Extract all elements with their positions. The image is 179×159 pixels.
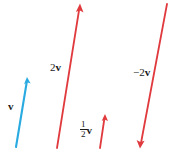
vector-half-v [100,114,108,148]
vector-scalar-multiple-figure: v 2v 12v −2v [0,0,179,159]
label-vector-2v-symbol: v [56,61,62,73]
label-vector-half-v: 12v [80,120,92,139]
label-vector-minus-2v-coefficient: −2 [133,66,145,78]
label-vector-v: v [8,101,14,112]
vector-v [16,77,31,147]
label-vector-v-text: v [8,100,14,112]
label-vector-minus-2v-symbol: v [145,66,151,78]
label-vector-minus-2v: −2v [133,67,150,78]
vector-2v-shaft [57,9,79,149]
vector-v-shaft [16,81,27,148]
label-vector-2v: 2v [50,62,61,73]
vector-half-v-shaft [100,119,104,149]
label-vector-half-v-symbol: v [87,124,93,136]
